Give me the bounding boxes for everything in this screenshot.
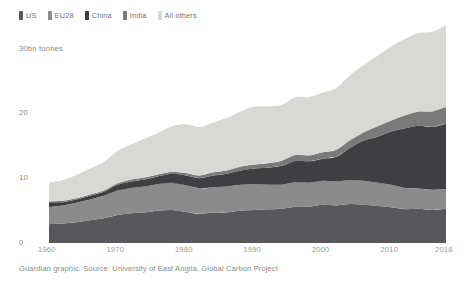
x-tick-label-1980: 1980 (175, 245, 193, 254)
y-tick-label-0: 0 (19, 238, 23, 247)
y-tick-label-20: 20 (19, 108, 28, 117)
x-tick-label-2010: 2010 (380, 245, 398, 254)
x-tick-label-1990: 1990 (243, 245, 261, 254)
chart-caption: Guardian graphic. Source: University of … (19, 264, 278, 273)
x-tick-label-2018: 2018 (435, 245, 453, 254)
x-tick-label-1960: 1960 (38, 245, 56, 254)
y-tick-label-30: 30bn tonnes (19, 44, 63, 53)
y-tick-label-10: 10 (19, 173, 28, 182)
x-tick-label-1970: 1970 (106, 245, 124, 254)
chart-plot-area (0, 18, 466, 246)
stacked-area-svg (0, 18, 466, 246)
x-tick-label-2000: 2000 (312, 245, 330, 254)
chart-figure: US EU28 China India All others 30bn tonn… (0, 0, 466, 286)
